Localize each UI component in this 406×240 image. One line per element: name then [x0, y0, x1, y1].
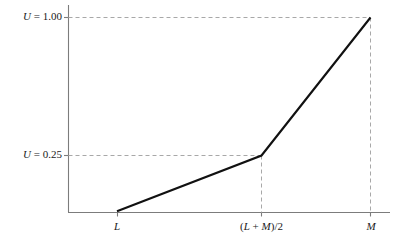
y-axis-label-mid: U = 0.25: [6, 149, 62, 160]
utility-function-chart: U = 1.00 U = 0.25 L (L + M)/2 M: [0, 0, 406, 240]
chart-plot-area: [0, 0, 406, 240]
x-axis-label-left: L: [102, 221, 132, 232]
y-axis-label-mid-value: 0.25: [43, 148, 62, 160]
x-axis-label-midpoint-plus: +: [250, 220, 262, 232]
utility-curve: [117, 18, 371, 212]
y-axis-label-top-value: 1.00: [43, 10, 62, 22]
x-axis-label-midpoint: (L + M)/2: [214, 221, 309, 232]
x-axis-label-right: M: [356, 221, 386, 232]
y-axis-label-top: U = 1.00: [6, 11, 62, 22]
x-axis-label-midpoint-close: )/2: [271, 220, 283, 232]
x-axis-label-midpoint-m: M: [262, 220, 271, 232]
